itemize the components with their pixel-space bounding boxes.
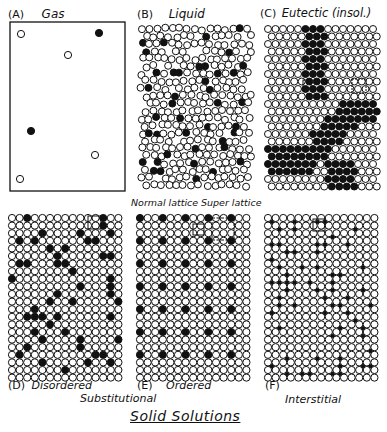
- panel-a-caption: (A) Gas: [8, 8, 65, 20]
- panel-e-letter: (E): [137, 379, 153, 392]
- figure-title: Solid Solutions: [130, 408, 240, 424]
- substitutional-label: Substitutional: [80, 393, 156, 404]
- panel-e-name: Ordered: [166, 379, 211, 392]
- panel-e-ordered-diagram: [136, 214, 256, 382]
- panel-c-caption: (C) Eutectic (insol.): [260, 8, 371, 20]
- super-lattice-label: Super lattice: [201, 198, 261, 208]
- panel-c-letter: (C): [260, 7, 276, 20]
- panel-f-interstitial-diagram: [264, 214, 384, 382]
- panel-b-caption: (B) Liquid: [137, 8, 205, 20]
- normal-lattice-label: Normal lattice: [131, 198, 198, 208]
- panel-a-letter: (A): [8, 8, 24, 21]
- gas-atoms: [16, 29, 102, 182]
- panel-e-caption: (E) Ordered: [137, 380, 211, 391]
- panel-d-disordered-diagram: [8, 214, 128, 382]
- panel-c-name: Eutectic (insol.): [282, 6, 371, 20]
- panel-d-name: Disordered: [32, 379, 93, 392]
- panel-c-eutectic-diagram: [263, 24, 383, 192]
- panel-a-name: Gas: [42, 7, 65, 21]
- panel-b-liquid-diagram: [137, 24, 255, 192]
- panel-f-name: Interstitial: [285, 394, 341, 405]
- panel-b-letter: (B): [137, 8, 153, 21]
- gas-container-box: [10, 22, 125, 191]
- panel-d-caption: (D) Disordered: [8, 380, 92, 391]
- panel-d-letter: (D): [8, 379, 25, 392]
- panel-b-name: Liquid: [169, 7, 205, 21]
- panel-f-letter: (F): [265, 380, 280, 391]
- panel-a-gas-diagram: [9, 21, 127, 193]
